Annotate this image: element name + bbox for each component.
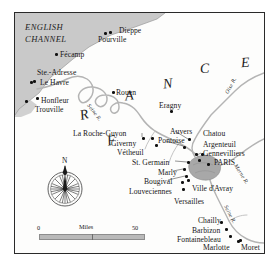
place-dot-eragny bbox=[170, 110, 173, 113]
place-label-chatou: Chatou bbox=[203, 130, 225, 138]
place-label-gennevilliers: Gennevilliers bbox=[203, 150, 245, 158]
place-dot-trouville bbox=[36, 97, 39, 100]
place-dot-moret bbox=[239, 239, 242, 242]
place-label-bougival: Bougival bbox=[144, 178, 172, 186]
place-label-moret: Moret bbox=[241, 244, 260, 252]
sea-label-line1: ENGLISH bbox=[25, 23, 63, 32]
place-label-marly: Marly bbox=[158, 169, 177, 177]
country-letter-e: E bbox=[241, 56, 251, 71]
place-label-giverny: Giverny bbox=[111, 140, 136, 148]
map-base-layer bbox=[15, 13, 264, 253]
place-dot-chatou bbox=[195, 153, 198, 156]
scale-min-label: 0 bbox=[37, 225, 40, 231]
place-dot-st-germain bbox=[187, 161, 190, 164]
place-label-eragny: Eragny bbox=[159, 102, 181, 110]
map-plate: FRANCESeine R.Oise R.Marne R.Seine R.Die… bbox=[14, 12, 265, 254]
place-label-le-havre: Le Havre bbox=[40, 79, 69, 87]
place-label-barbizon: Barbizon bbox=[192, 227, 220, 235]
compass-north-label: N bbox=[62, 157, 67, 164]
place-dot-bougival bbox=[185, 175, 188, 178]
place-label-marlotte: Marlotte bbox=[203, 244, 230, 252]
place-dot-giverny bbox=[151, 137, 154, 140]
compass-rose bbox=[48, 165, 82, 206]
place-label-chailly: Chailly bbox=[198, 217, 221, 225]
place-label-auvers: Auvers bbox=[170, 128, 192, 136]
place-dot-gennevilliers bbox=[198, 159, 201, 162]
place-label-st-germain: St. Germain bbox=[132, 159, 169, 167]
place-dot-ste-adresse bbox=[33, 80, 36, 83]
place-label-la-roche-guyon: La Roche-Guyon bbox=[73, 130, 126, 138]
place-dot-honfleur bbox=[25, 100, 28, 103]
place-label-pourville: Pourville bbox=[98, 36, 126, 44]
place-label-paris: PARIS bbox=[214, 159, 235, 167]
place-label-ville-d-avray: Ville d'Avray bbox=[192, 185, 233, 193]
place-dot-marly bbox=[183, 168, 186, 171]
place-label-ste-adresse: Ste.-Adresse bbox=[37, 69, 76, 77]
place-label-rouen: Rouen bbox=[116, 89, 136, 97]
place-label-pontoise: Pontoise bbox=[158, 137, 185, 145]
place-dot-la-roche-guyon bbox=[142, 137, 145, 140]
place-dot-ville-d-avray bbox=[187, 179, 190, 182]
place-dot-versailles bbox=[182, 188, 185, 191]
scale-max-label: 50 bbox=[132, 225, 138, 231]
scale-unit-label: Miles bbox=[79, 224, 93, 230]
country-letter-n: N bbox=[162, 77, 173, 92]
place-label-louveciennes: Louveciennes bbox=[129, 188, 172, 196]
place-dot-f-camp bbox=[55, 53, 58, 56]
place-dot-rouen bbox=[112, 91, 115, 94]
historical-map-figure: FRANCESeine R.Oise R.Marne R.Seine R.Die… bbox=[0, 0, 279, 267]
place-label-versailles: Versailles bbox=[174, 198, 204, 206]
place-label-dieppe: Dieppe bbox=[119, 27, 141, 35]
place-dot-dieppe bbox=[109, 31, 112, 34]
place-label-argenteuil: Argenteuil bbox=[203, 141, 236, 149]
place-dot-auvers bbox=[188, 138, 191, 141]
scale-bar bbox=[39, 234, 145, 240]
country-letter-c: C bbox=[200, 62, 210, 77]
place-dot-fontainebleau bbox=[229, 235, 232, 238]
sea-label-line2: CHANNEL bbox=[25, 35, 66, 44]
place-dot-barbizon bbox=[225, 228, 228, 231]
place-dot-paris bbox=[207, 163, 210, 166]
place-dot-pontoise bbox=[183, 146, 186, 149]
place-label-v-theuil: Vétheuil bbox=[117, 149, 144, 157]
place-label-honfleur: Honfleur bbox=[41, 97, 69, 105]
place-dot-louveciennes bbox=[181, 181, 184, 184]
place-label-trouville: Trouville bbox=[35, 106, 64, 114]
place-label-f-camp: Fécamp bbox=[60, 51, 84, 59]
place-dot-le-havre bbox=[30, 81, 33, 84]
